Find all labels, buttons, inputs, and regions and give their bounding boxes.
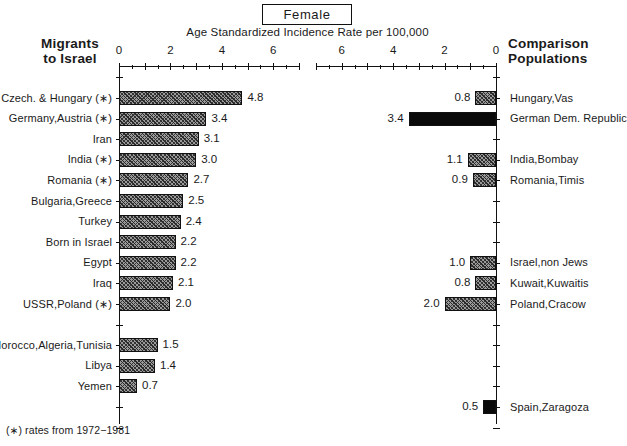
row-tick [493,325,500,326]
bar-right [468,153,496,167]
category-label-left: Egypt [83,256,112,268]
axis-tick [235,65,236,69]
category-label-right: Israel,non Jews [510,256,588,268]
bar-value-label: 0.9 [452,173,468,185]
category-label-left: Born in Israel [46,236,112,248]
bar-left [119,379,137,393]
category-label-left: Bulgaria,Greece [31,195,112,207]
axis-tick [445,63,446,70]
category-label-right: Romania,Timis [510,174,584,186]
axis-tick [432,65,433,69]
category-label-right: Hungary,Vas [510,92,573,104]
chart-title-box: Female [262,4,352,25]
row-tick [116,407,123,408]
axis-tick [196,63,197,70]
axis-tick [316,63,317,70]
category-label-right: Spain,Zaragoza [510,401,589,413]
axis-tick [158,65,159,69]
axis-tick [222,63,223,70]
bar-left [119,338,158,352]
left-panel-heading-line2: to Israel [22,51,118,66]
bar-value-label: 0.7 [142,379,158,391]
left-panel-heading-line1: Migrants [22,36,118,51]
axis-tick [248,63,249,70]
category-label-right: India,Bombay [510,153,578,165]
bar-left [119,235,176,249]
category-label-right: Poland,Cracow [510,298,586,310]
category-label-left: India (∗) [68,153,112,166]
category-label-left: Romania (∗) [47,174,112,187]
bar-left [119,215,181,229]
row-tick [116,325,123,326]
row-tick [493,386,500,387]
axis-tick-label: 2 [441,44,447,56]
left-panel-heading: Migrants to Israel [22,36,118,66]
right-panel-heading-line1: Comparison [508,36,618,51]
category-label-left: Iran [93,133,112,145]
bar-left [119,112,206,126]
bar-right [483,400,496,414]
bar-left [119,173,188,187]
axis-tick-label: 4 [219,44,225,56]
axis-tick [355,65,356,69]
category-label-left: Czech. & Hungary (∗) [1,92,112,105]
bar-left [119,359,155,373]
bar-value-label: 2.4 [186,215,202,227]
axis-tick-label: 6 [339,44,345,56]
category-label-left: USSR,Poland (∗) [23,298,112,311]
axis-tick [299,63,300,70]
bar-left [119,276,173,290]
axis-tick [170,63,171,70]
row-tick [493,242,500,243]
axis-tick [393,63,394,70]
bar-value-label: 1.5 [163,338,179,350]
bar-value-label: 3.1 [204,132,220,144]
row-tick [493,222,500,223]
right-panel-heading-line2: Populations [508,51,618,66]
axis-tick [183,65,184,69]
right-zero-spine [496,66,497,424]
bar-value-label: 3.4 [211,112,227,124]
axis-tick [496,63,497,70]
axis-tick [273,63,274,70]
row-tick [493,139,500,140]
category-label-left: Yemen [78,380,112,392]
bar-value-label: 1.0 [449,256,465,268]
axis-tick [457,65,458,69]
axis-tick [286,65,287,69]
bar-value-label: 2.0 [424,297,440,309]
axis-tick-label: 6 [270,44,276,56]
bar-value-label: 1.1 [447,153,463,165]
category-label-left: Iraq [93,277,112,289]
axis-tick [470,63,471,70]
bar-right [475,276,496,290]
bar-value-label: 4.8 [247,91,263,103]
right-panel-heading: Comparison Populations [508,36,618,66]
bar-right [445,297,496,311]
axis-tick [380,65,381,69]
category-label-left: Libya [85,359,112,371]
axis-tick [260,65,261,69]
bar-value-label: 2.2 [181,235,197,247]
row-tick [493,366,500,367]
bar-right [409,112,496,126]
bar-value-label: 2.1 [178,276,194,288]
axis-tick-label: 0 [493,44,499,56]
axis-tick [132,65,133,69]
axis-tick-label: 0 [116,44,122,56]
category-label-left: Germany,Austria (∗) [9,112,112,125]
axis-tick [329,65,330,69]
row-tick [116,77,123,78]
axis-tick [406,65,407,69]
category-label-left: Turkey [78,215,112,227]
axis-tick [119,63,120,70]
bar-left [119,132,199,146]
bar-value-label: 0.5 [462,400,478,412]
bar-value-label: 3.4 [388,112,404,124]
axis-tick [342,63,343,70]
bar-left [119,153,196,167]
bar-value-label: 3.0 [201,153,217,165]
axis-tick [419,63,420,70]
row-tick [493,77,500,78]
